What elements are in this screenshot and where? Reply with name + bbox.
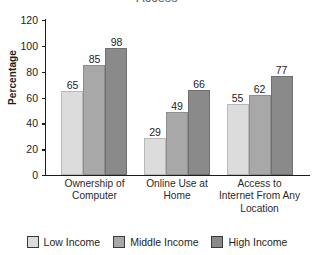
bar-value-label: 49 <box>171 100 183 112</box>
y-axis-tick: 100 <box>20 40 46 52</box>
x-axis-category-label: Access toInternet From AnyLocation <box>206 178 314 215</box>
chart-title: Access <box>0 0 314 5</box>
legend-label: Low Income <box>44 236 101 248</box>
legend-swatch-icon <box>27 236 39 248</box>
x-axis-category-label-line: Ownership of <box>46 178 142 190</box>
y-axis-tick: 80 <box>26 66 46 78</box>
x-axis-category-label-line: Location <box>206 203 314 215</box>
x-axis-category-label-line: Computer <box>46 190 142 202</box>
bar-value-label: 77 <box>276 64 288 76</box>
legend-label: High Income <box>228 236 287 248</box>
bar-group: 294966 <box>144 20 210 175</box>
bar[interactable]: 77 <box>271 76 293 175</box>
legend-item[interactable]: High Income <box>211 236 287 248</box>
bar[interactable]: 55 <box>227 104 249 175</box>
bar-value-label: 66 <box>193 78 205 90</box>
bar-groups: 658598294966556277 <box>46 20 308 175</box>
y-axis-tick-label: 80 <box>26 66 42 78</box>
bar[interactable]: 29 <box>144 138 166 175</box>
chart-page: Access Percentage 020406080100120 658598… <box>0 0 314 255</box>
bar[interactable]: 98 <box>105 48 127 175</box>
y-axis-tick-label: 100 <box>20 40 42 52</box>
legend-item[interactable]: Low Income <box>27 236 101 248</box>
x-axis-category-label-line: Internet From Any <box>206 190 314 202</box>
y-axis-tick-label: 60 <box>26 92 42 104</box>
bar-group: 658598 <box>61 20 127 175</box>
y-axis-tick: 60 <box>26 92 46 104</box>
bar[interactable]: 85 <box>83 65 105 175</box>
y-axis-tick: 20 <box>26 143 46 155</box>
plot-area: 020406080100120 658598294966556277 <box>46 20 308 175</box>
bar-group: 556277 <box>227 20 293 175</box>
bar-value-label: 65 <box>67 79 79 91</box>
bar-value-label: 29 <box>149 126 161 138</box>
bar[interactable]: 49 <box>166 112 188 175</box>
bar[interactable]: 66 <box>188 90 210 175</box>
x-axis-category-labels: Ownership ofComputerOnline Use atHomeAcc… <box>46 178 310 224</box>
bar[interactable]: 62 <box>249 95 271 175</box>
chart-legend: Low IncomeMiddle IncomeHigh Income <box>0 236 314 248</box>
legend-swatch-icon <box>211 236 223 248</box>
bar[interactable]: 65 <box>61 91 83 175</box>
y-axis-tick: 40 <box>26 117 46 129</box>
y-axis-label: Percentage <box>7 38 18 118</box>
legend-item[interactable]: Middle Income <box>113 236 198 248</box>
y-axis-tick-label: 20 <box>26 143 42 155</box>
y-axis-tick: 120 <box>20 14 46 26</box>
y-axis-tick: 0 <box>32 169 46 181</box>
legend-label: Middle Income <box>130 236 198 248</box>
bar-value-label: 62 <box>254 83 266 95</box>
bar-value-label: 98 <box>111 36 123 48</box>
x-axis-category-label: Ownership ofComputer <box>46 178 142 203</box>
legend-swatch-icon <box>113 236 125 248</box>
y-axis-tick-label: 0 <box>32 169 42 181</box>
y-axis-tick-label: 120 <box>20 14 42 26</box>
bar-value-label: 55 <box>232 92 244 104</box>
y-axis-tick-label: 40 <box>26 117 42 129</box>
x-axis-category-label-line: Access to <box>206 178 314 190</box>
y-axis-tick-mark <box>42 175 46 176</box>
bar-value-label: 85 <box>89 53 101 65</box>
